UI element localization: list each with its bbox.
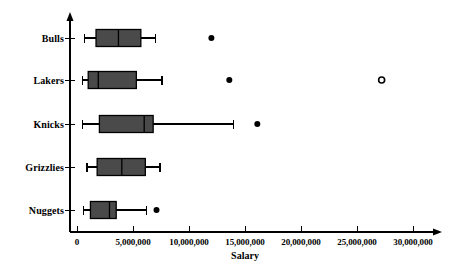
x-axis-tick-label: 10,000,000 xyxy=(169,237,209,247)
y-axis-label-lakers: Lakers xyxy=(33,75,64,86)
box-plot-series-knicks xyxy=(83,116,261,133)
x-axis-arrow xyxy=(433,229,442,236)
x-axis-tick-label: 5,000,000 xyxy=(115,237,150,247)
box-plot-series-grizzlies xyxy=(87,159,160,176)
outlier-marker xyxy=(208,35,214,41)
box-iqr xyxy=(90,202,116,219)
outlier-marker-open xyxy=(379,77,385,83)
y-axis-label-grizzlies: Grizzlies xyxy=(25,162,64,173)
outlier-marker xyxy=(154,207,160,213)
box-plot-series-nuggets xyxy=(84,202,160,219)
box-plot-series-lakers xyxy=(83,72,385,89)
x-axis-tick-label: 20,000,000 xyxy=(281,237,321,247)
box-plot-chart: BullsLakersKnicksGrizzliesNuggets 05,000… xyxy=(0,0,466,279)
outlier-marker xyxy=(226,77,232,83)
x-axis-title: Salary xyxy=(231,250,259,261)
x-axis-tick-label: 30,000,000 xyxy=(393,237,433,247)
x-axis-tick-label: 0 xyxy=(75,237,79,247)
box-plot-series-bulls xyxy=(85,30,215,47)
outlier-marker xyxy=(254,121,260,127)
x-axis-tick-label: 15,000,000 xyxy=(225,237,265,247)
y-axis-arrow xyxy=(67,12,74,21)
box-iqr xyxy=(99,116,153,133)
y-axis-label-bulls: Bulls xyxy=(42,33,64,44)
y-axis-label-knicks: Knicks xyxy=(33,119,64,130)
box-iqr xyxy=(88,72,136,89)
y-axis-label-nuggets: Nuggets xyxy=(29,205,64,216)
x-axis-tick-label: 25,000,000 xyxy=(337,237,377,247)
